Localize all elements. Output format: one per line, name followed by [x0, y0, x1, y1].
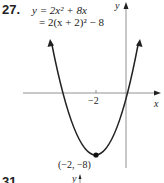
- next-y-axis-arrow-icon: [79, 174, 82, 179]
- next-graph-axis: [0, 0, 164, 183]
